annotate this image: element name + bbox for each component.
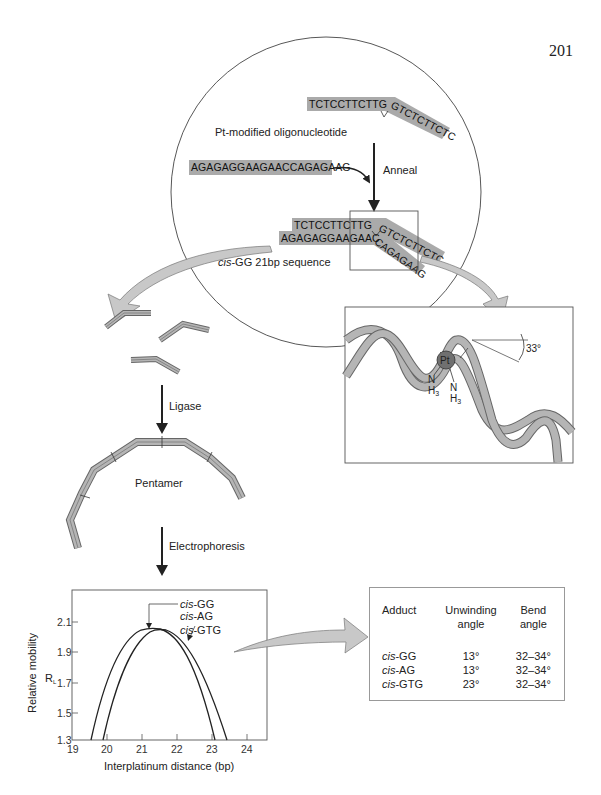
mobility-chart: 2.1 1.9 1.7 1.5 1.3 19 20 21 22 23 24 In… <box>26 590 267 772</box>
x-axis-label: Interplatinum distance (bp) <box>104 760 234 772</box>
table-header-row-2: angle angle <box>370 618 564 630</box>
page-number: 201 <box>549 42 573 59</box>
y-tick: 1.5 <box>57 707 72 719</box>
unwinding-value: 23° <box>439 678 502 690</box>
sequence-label: cis-GG 21bp sequence <box>218 256 331 268</box>
complement-strand-seq: AGAGAGGAAGAACCAGAGAAG <box>191 161 351 173</box>
chart-frame <box>72 590 267 740</box>
strand-top-tail-seq: GTCTCTTCTC <box>389 99 458 143</box>
x-tick: 19 <box>67 743 79 755</box>
bend-value: 32–34° <box>503 678 564 690</box>
dna-fragments <box>106 313 209 372</box>
pentamer-illustration <box>70 436 242 548</box>
synthesis-circle <box>171 37 481 347</box>
header-adduct: Adduct <box>370 604 439 616</box>
series-cis-gtg <box>103 629 227 740</box>
series-cis-gg-ag <box>91 628 215 740</box>
adduct-name: -AG <box>395 664 415 676</box>
x-tick: 20 <box>101 743 113 755</box>
adduct-prefix: cis <box>382 664 395 676</box>
bend-angle-label: 33° <box>526 343 541 354</box>
unwinding-value: 13° <box>439 664 502 676</box>
y-axis-label: Relative mobility <box>26 632 38 713</box>
electrophoresis-label: Electrophoresis <box>169 540 245 552</box>
header-unwinding-angle: angle <box>439 618 502 630</box>
adduct-prefix: cis <box>382 650 395 662</box>
ligase-arrow-head-icon <box>156 423 168 434</box>
y-axis-symbol: RL <box>45 672 57 685</box>
bend-value: 32–34° <box>503 664 564 676</box>
electrophoresis-arrow-head-icon <box>156 565 168 576</box>
duplex-bottom-seq: AGAGAGGAAGAAC <box>281 232 380 244</box>
adduct-name: -GTG <box>395 678 423 690</box>
table-row: cis-AG 13° 32–34° <box>370 664 564 676</box>
nh3-n-right: N <box>450 382 457 393</box>
adduct-table: Adduct Unwinding Bend angle angle cis-GG… <box>369 587 565 701</box>
annealed-duplex: TCTCCTTCTTG AGAGAGGAAGAAC GTCTCTTCTC CAG… <box>279 218 446 281</box>
pt-modified-label: Pt-modified oligonucleotide <box>215 126 347 138</box>
header-unwinding: Unwinding <box>439 604 502 616</box>
nh3-n-left: N <box>428 374 435 385</box>
x-tick: 21 <box>136 743 148 755</box>
annotation-cis-ag: cis-AG <box>180 610 213 622</box>
annotation-cis-gtg: cis-GTG <box>180 624 221 636</box>
bend-value: 32–34° <box>503 650 564 662</box>
header-bend-angle: angle <box>503 618 564 630</box>
ligase-label: Ligase <box>169 400 201 412</box>
y-tick: 1.7 <box>57 677 72 689</box>
curved-arrow-to-table-icon <box>234 618 368 653</box>
strand-top-seq: TCTCCTTCTTG <box>309 98 387 110</box>
duplex-top-seq: TCTCCTTCTTG <box>294 219 372 231</box>
x-tick: 22 <box>171 743 183 755</box>
anneal-label: Anneal <box>383 164 417 176</box>
adduct-prefix: cis <box>382 678 395 690</box>
table-header-row: Adduct Unwinding Bend <box>370 604 564 616</box>
y-tick: 1.9 <box>57 646 72 658</box>
pt-link-icon <box>381 111 388 117</box>
pt-label: Pt <box>440 355 450 366</box>
unwinding-value: 13° <box>439 650 502 662</box>
anneal-arrow-head-icon <box>368 200 380 212</box>
table-row: cis-GG 13° 32–34° <box>370 650 564 662</box>
adduct-name: -GG <box>395 650 416 662</box>
pentamer-label: Pentamer <box>135 477 183 489</box>
x-tick: 24 <box>241 743 253 755</box>
x-tick: 23 <box>206 743 218 755</box>
table-row: cis-GTG 23° 32–34° <box>370 678 564 690</box>
annotation-cis-gg: cis-GG <box>180 598 214 610</box>
y-tick: 2.1 <box>57 616 72 628</box>
header-bend: Bend <box>503 604 564 616</box>
